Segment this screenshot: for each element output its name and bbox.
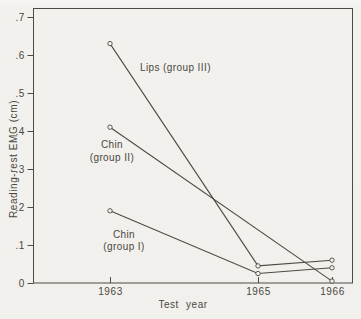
- data-point: [108, 209, 112, 213]
- data-point: [330, 279, 334, 283]
- chart-canvas: 0.1.2.3.4.5.6.7196319651966Lips (group I…: [0, 0, 361, 319]
- y-tick-label: .1: [16, 240, 25, 251]
- data-point: [330, 258, 334, 262]
- y-tick-label: .6: [16, 50, 25, 61]
- y-tick-label: .7: [16, 12, 25, 23]
- series-label: (group I): [103, 241, 144, 252]
- data-point: [256, 271, 260, 275]
- emg-test-year-figure: 0.1.2.3.4.5.6.7196319651966Lips (group I…: [0, 0, 361, 319]
- y-axis-title: Reading-rest EMG (cm): [8, 100, 19, 218]
- x-tick-label: 1966: [320, 286, 345, 297]
- y-tick-label: 0: [19, 278, 25, 289]
- data-point: [108, 125, 112, 129]
- x-tick-label: 1965: [246, 286, 271, 297]
- data-point: [256, 264, 260, 268]
- series-line: [110, 44, 332, 266]
- y-tick-label: .5: [16, 88, 25, 99]
- series-label: (group II): [90, 152, 135, 163]
- x-axis-title: Test year: [33, 299, 333, 310]
- data-point: [330, 266, 334, 270]
- series-label: Chin: [101, 139, 123, 150]
- data-point: [108, 41, 112, 45]
- x-tick-label: 1963: [98, 286, 123, 297]
- series-label: Lips (group III): [140, 62, 211, 73]
- series-label: Chin: [113, 229, 135, 240]
- plot-border: [34, 9, 353, 284]
